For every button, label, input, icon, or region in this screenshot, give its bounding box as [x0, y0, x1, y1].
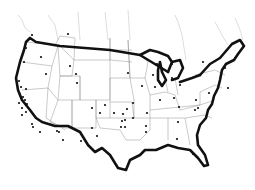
location-dot [132, 102, 134, 104]
location-dot [96, 135, 98, 137]
location-dot [80, 140, 82, 142]
location-dot [31, 123, 33, 125]
location-dot [224, 67, 226, 69]
location-dot [58, 131, 60, 133]
location-dot [156, 63, 158, 65]
location-dot [23, 61, 25, 63]
location-dot [22, 96, 24, 98]
location-dot [197, 107, 199, 109]
location-dot [21, 114, 23, 116]
location-dot [124, 126, 126, 128]
location-dot [145, 125, 147, 127]
location-dot [132, 117, 134, 119]
location-dot [178, 106, 180, 108]
location-dot [122, 113, 124, 115]
location-dot [126, 108, 128, 110]
location-dot [25, 111, 27, 113]
location-dot [145, 131, 147, 133]
great-lakes [140, 50, 200, 86]
location-dot [194, 109, 196, 111]
location-dot [171, 63, 173, 65]
location-dot [67, 33, 69, 35]
location-dot [99, 112, 101, 114]
location-dot [141, 85, 143, 87]
location-dot [31, 34, 33, 36]
location-dot [179, 84, 181, 86]
location-dot [25, 47, 27, 49]
location-dot [173, 97, 175, 99]
location-dot [20, 86, 22, 88]
location-dot [56, 130, 58, 132]
location-dot [121, 120, 123, 122]
location-dot [18, 102, 20, 104]
location-dot [40, 56, 42, 58]
location-dot [91, 107, 93, 109]
location-dot [75, 73, 77, 75]
location-dot [192, 153, 194, 155]
location-dot [32, 126, 34, 128]
location-dot [227, 87, 229, 89]
location-dot [62, 139, 64, 141]
location-dot [91, 127, 93, 129]
location-dot [202, 61, 204, 63]
location-dot [171, 77, 173, 79]
location-dot [69, 65, 71, 67]
us-map [0, 0, 255, 190]
location-dot [25, 88, 27, 90]
location-dot [177, 121, 179, 123]
us-outline [16, 38, 244, 170]
location-dot [159, 99, 161, 101]
location-dot [208, 92, 210, 94]
location-dot [39, 131, 41, 133]
location-dot [24, 99, 26, 101]
location-dot [21, 107, 23, 109]
location-dot [76, 82, 78, 84]
location-dot [18, 80, 20, 82]
location-dot [104, 104, 106, 106]
location-dot [154, 86, 156, 88]
location-dot [146, 112, 148, 114]
location-dot [120, 126, 122, 128]
location-dot [124, 119, 126, 121]
location-dot [152, 74, 154, 76]
location-dot [127, 72, 129, 74]
location-dot [45, 73, 47, 75]
location-dot [26, 103, 28, 105]
location-dot [176, 138, 178, 140]
location-dot [195, 99, 197, 101]
location-dot [113, 112, 115, 114]
